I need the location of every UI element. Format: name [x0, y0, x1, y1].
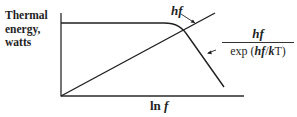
y-label-line-1: Thermal: [5, 9, 48, 23]
y-label-line-3: watts: [5, 36, 48, 50]
x-label-ln: ln: [150, 98, 164, 113]
x-axis-label: ln f: [150, 98, 168, 114]
y-axis-label: Thermal energy, watts: [5, 9, 48, 50]
fraction-bar: [222, 42, 294, 43]
frac-den-exp: exp (: [230, 44, 254, 58]
rising-line-hf: [61, 13, 215, 96]
y-label-line-2: energy,: [5, 23, 48, 37]
falling-curve: [61, 23, 224, 87]
hf-curve-label: hf: [171, 3, 183, 19]
x-label-f: f: [164, 98, 168, 113]
fraction-denominator: exp (hf/kT): [220, 44, 296, 58]
fraction-numerator: hf: [220, 27, 296, 41]
falling-curve-label: hf exp (hf/kT): [220, 27, 296, 58]
frac-den-hf: hf: [254, 44, 265, 58]
frac-den-t: T): [275, 44, 286, 58]
